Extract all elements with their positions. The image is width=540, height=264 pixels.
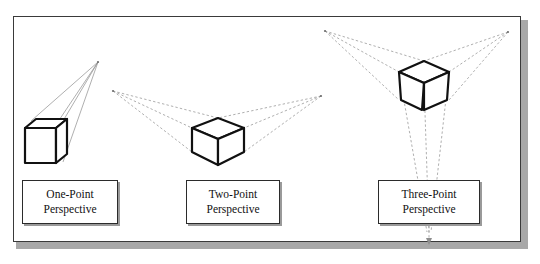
- three-point-vanishing-point-right: [507, 31, 509, 33]
- figure-page: .cons { stroke: #8d8d8d; stroke-width: 0…: [0, 0, 540, 264]
- panel-two-point: [112, 90, 322, 165]
- label-three-point-line1: Three-Point: [402, 187, 457, 202]
- two-point-vanishing-point-left: [112, 90, 114, 92]
- panel-one-point: [25, 61, 99, 163]
- one-point-vanishing-point: [97, 61, 99, 63]
- three-point-cube: [399, 61, 449, 110]
- one-point-cube: [25, 119, 67, 163]
- label-two-point-line2: Perspective: [206, 202, 259, 217]
- label-box-one-point-perspective[interactable]: One-Point Perspective: [22, 180, 118, 224]
- three-point-vanishing-point-left: [324, 30, 326, 32]
- perspective-diagram-canvas: .cons { stroke: #8d8d8d; stroke-width: 0…: [0, 0, 540, 264]
- label-box-three-point-perspective[interactable]: Three-Point Perspective: [378, 180, 480, 224]
- label-two-point-line1: Two-Point: [209, 187, 257, 202]
- label-three-point-line2: Perspective: [402, 202, 455, 217]
- label-box-two-point-perspective[interactable]: Two-Point Perspective: [186, 180, 280, 224]
- label-one-point-line1: One-Point: [46, 187, 93, 202]
- two-point-vanishing-point-right: [320, 95, 322, 97]
- label-one-point-line2: Perspective: [43, 202, 96, 217]
- two-point-cube: [192, 118, 244, 165]
